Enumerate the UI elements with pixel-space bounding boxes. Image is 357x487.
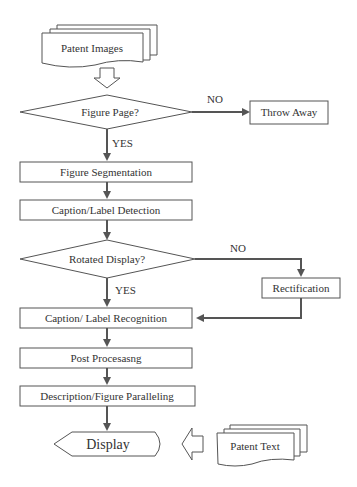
rotated-display-label: Rotated Display? [69,253,145,265]
rotated-yes-label: YES [115,284,136,296]
figure-segmentation-label: Figure Segmentation [60,166,152,178]
rotated-display-decision: Rotated Display? [20,240,195,278]
patent-images-label: Patent Images [61,42,123,54]
figure-segmentation-node: Figure Segmentation [20,162,192,182]
description-paralleling-label: Description/Figure Paralleling [40,390,174,402]
caption-detection-label: Caption/Label Detection [52,204,161,216]
hollow-left-arrow-icon [182,428,203,460]
display-node: Display [54,432,160,456]
figure-page-yes-label: YES [112,137,133,149]
throw-away-label: Throw Away [261,106,318,118]
post-processing-label: Post Procesasng [70,352,142,364]
flowchart: Patent Images Figure Page? NO Throw Away… [0,0,357,487]
rectification-label: Rectification [273,282,330,294]
rotated-no-label: NO [230,242,246,254]
display-label: Display [86,437,130,452]
figure-page-no-label: NO [207,93,223,105]
caption-detection-node: Caption/Label Detection [20,200,192,220]
description-paralleling-node: Description/Figure Paralleling [20,386,195,406]
figure-page-decision: Figure Page? [20,95,192,129]
post-processing-node: Post Procesasng [20,348,192,368]
throw-away-node: Throw Away [250,101,328,124]
patent-text-label: Patent Text [230,440,279,452]
patent-images-node: Patent Images [42,25,157,67]
no-arrow [195,259,301,275]
rectification-node: Rectification [262,278,340,298]
caption-recognition-label: Caption/ Label Recognition [45,312,168,324]
figure-page-label: Figure Page? [81,106,139,118]
hollow-down-arrow-icon [94,68,120,88]
caption-recognition-node: Caption/ Label Recognition [20,308,192,328]
rectification-return-arrow [198,298,301,318]
patent-text-node: Patent Text [217,425,307,466]
